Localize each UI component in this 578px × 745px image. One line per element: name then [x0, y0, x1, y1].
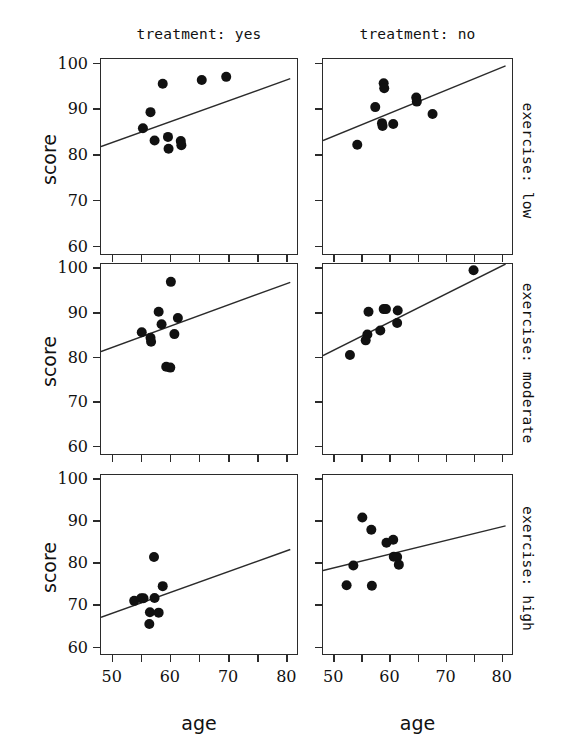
x-tick: [446, 455, 447, 462]
y-tick: [315, 401, 322, 402]
x-tick-label: 60: [148, 667, 192, 686]
data-point: [146, 107, 156, 117]
data-point: [342, 580, 352, 590]
panel-plot-area: [323, 264, 513, 455]
regression-line: [101, 282, 290, 351]
data-point: [375, 326, 385, 336]
data-point: [364, 307, 374, 317]
data-point: [149, 552, 159, 562]
x-tick: [389, 455, 390, 462]
panel-treatment-no-exercise-high: [322, 474, 513, 655]
y-tick: [93, 604, 100, 605]
x-tick: [361, 655, 362, 662]
panel-plot-area: [101, 264, 298, 455]
y-tick-label: 70: [44, 595, 88, 614]
x-tick: [228, 455, 229, 462]
facet-scatter-figure: treatment: yestreatment: noexercise: low…: [0, 0, 578, 745]
y-tick: [93, 200, 100, 201]
y-tick: [93, 647, 100, 648]
x-tick: [502, 455, 503, 462]
data-point: [144, 619, 154, 629]
y-tick: [93, 246, 100, 247]
data-point: [154, 608, 164, 618]
data-point: [173, 313, 183, 323]
x-tick: [361, 455, 362, 462]
y-tick-label: 90: [44, 303, 88, 322]
y-tick: [93, 63, 100, 64]
data-point: [137, 327, 147, 337]
x-tick: [141, 655, 142, 662]
data-point: [166, 277, 176, 287]
regression-line: [101, 550, 290, 618]
data-point: [361, 335, 371, 345]
data-point: [469, 265, 479, 275]
x-tick: [446, 255, 447, 262]
y-tick-label: 60: [44, 638, 88, 657]
y-tick: [315, 312, 322, 313]
data-point: [428, 109, 438, 119]
panel-treatment-no-exercise-moderate: [322, 263, 513, 455]
x-tick: [474, 455, 475, 462]
y-tick: [315, 154, 322, 155]
data-point: [370, 102, 380, 112]
y-tick: [315, 357, 322, 358]
data-point: [145, 607, 155, 617]
y-tick: [315, 200, 322, 201]
y-tick: [93, 108, 100, 109]
y-tick-label: 90: [44, 99, 88, 118]
column-strip-label-1: treatment: no: [322, 26, 513, 42]
data-point: [154, 307, 164, 317]
x-tick: [389, 255, 390, 262]
data-point: [197, 75, 207, 85]
x-tick: [257, 255, 258, 262]
row-strip-label-2: exercise: high: [520, 478, 536, 659]
y-tick: [315, 108, 322, 109]
x-tick: [141, 455, 142, 462]
data-point: [388, 119, 398, 129]
panel-treatment-yes-exercise-high: [100, 474, 298, 655]
x-tick: [333, 655, 334, 662]
data-point: [394, 560, 404, 570]
row-strip-label-1: exercise: moderate: [520, 267, 536, 459]
x-tick: [112, 255, 113, 262]
y-tick: [315, 63, 322, 64]
x-tick: [170, 655, 171, 662]
x-tick: [257, 655, 258, 662]
data-point: [138, 123, 148, 133]
x-tick: [446, 655, 447, 662]
panel-treatment-no-exercise-low: [322, 58, 513, 255]
data-point: [388, 535, 398, 545]
x-tick: [286, 255, 287, 262]
data-point: [412, 97, 422, 107]
panel-plot-area: [323, 475, 513, 655]
y-tick: [315, 478, 322, 479]
data-point: [379, 83, 389, 93]
x-tick: [418, 455, 419, 462]
data-point: [158, 79, 168, 89]
column-strip-label-0: treatment: yes: [100, 26, 298, 42]
data-point: [150, 593, 160, 603]
y-tick: [93, 446, 100, 447]
data-point: [163, 132, 173, 142]
x-tick: [286, 455, 287, 462]
panel-treatment-yes-exercise-moderate: [100, 263, 298, 455]
x-axis-title: age: [100, 712, 298, 734]
data-point: [367, 581, 377, 591]
y-tick: [315, 446, 322, 447]
data-point: [366, 525, 376, 535]
x-tick: [286, 655, 287, 662]
x-tick: [389, 655, 390, 662]
data-point: [381, 304, 391, 314]
data-point: [158, 581, 168, 591]
y-tick-label: 90: [44, 511, 88, 530]
data-point: [393, 305, 403, 315]
panel-treatment-yes-exercise-low: [100, 58, 298, 255]
y-tick-label: 70: [44, 392, 88, 411]
regression-line: [101, 79, 290, 147]
y-tick: [93, 154, 100, 155]
x-tick: [228, 655, 229, 662]
y-tick: [315, 604, 322, 605]
data-point: [221, 72, 231, 82]
y-tick: [315, 562, 322, 563]
x-tick: [199, 455, 200, 462]
